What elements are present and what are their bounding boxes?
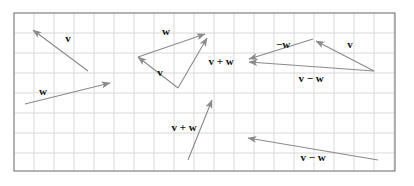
label-v-minus-w-bottom: v − w [300,151,325,163]
label-v-middle: v [157,66,163,78]
label-w-lower-left: w [39,85,47,97]
label-v-right: v [347,38,353,50]
label-w-middle: w [162,25,170,37]
label-minus-w-right: −w [276,38,290,50]
label-v-plus-w-bottom: v + w [171,121,196,133]
plot-area-background [14,13,395,171]
label-v-minus-w-right: v − w [298,72,323,84]
label-v-upper-left: v [65,32,71,44]
vector-diagram-canvas: vwwvv + w−wvv − wv + wv − w [0,0,414,186]
label-v-plus-w-middle: v + w [208,55,233,67]
figure-page: vwwvv + w−wvv − wv + wv − w [0,0,414,186]
